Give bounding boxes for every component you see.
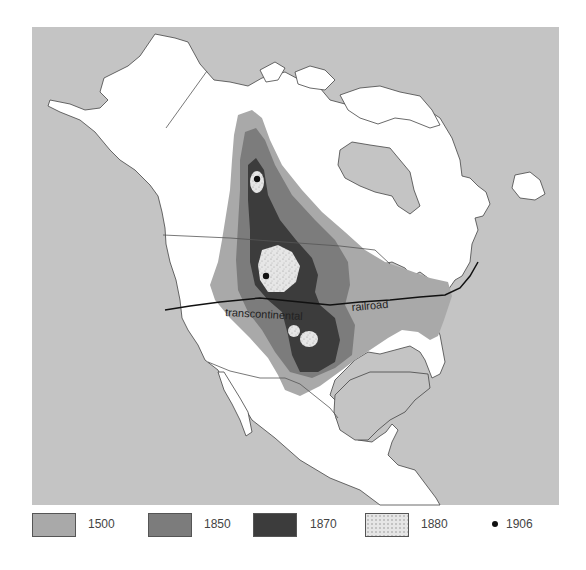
- range-map: transcontinental railroad: [0, 0, 586, 570]
- range-1880-south-2: [300, 331, 318, 347]
- range-1880-south-1: [288, 325, 300, 337]
- point-1906-central: [263, 273, 269, 279]
- point-1906-north: [254, 176, 260, 182]
